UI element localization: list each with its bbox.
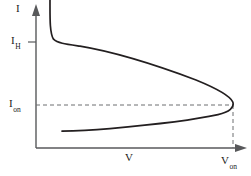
- iv-curve: [50, 0, 233, 131]
- y-axis: [28, 4, 40, 148]
- x-axis: [36, 144, 247, 152]
- on-voltage-label-sub: on: [229, 162, 237, 171]
- holding-current-label: IH: [11, 35, 20, 49]
- x-axis-label: V: [125, 152, 133, 163]
- holding-current-label-sub: H: [15, 42, 20, 51]
- iv-characteristic-chart: I IH Ion V Von: [0, 0, 251, 176]
- chart-canvas: [0, 0, 251, 176]
- on-voltage-label: Von: [221, 155, 236, 169]
- on-current-label-sub: on: [13, 105, 21, 114]
- x-axis-label-text: V: [125, 151, 133, 163]
- y-axis-arrow-icon: [32, 4, 40, 16]
- on-voltage-label-main: V: [221, 154, 229, 166]
- on-current-label: Ion: [9, 98, 20, 112]
- x-axis-arrow-icon: [235, 144, 247, 152]
- y-axis-label-text: I: [16, 2, 20, 14]
- y-axis-label: I: [16, 3, 20, 14]
